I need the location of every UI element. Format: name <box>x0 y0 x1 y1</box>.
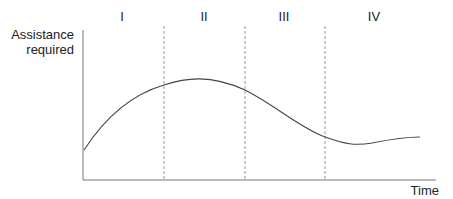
phase-label-2: II <box>200 9 207 24</box>
y-axis-label-line2: required <box>4 42 74 57</box>
phase-label-4: IV <box>368 9 380 24</box>
assistance-curve <box>84 79 420 150</box>
x-axis-label: Time <box>411 183 439 198</box>
y-axis-label: Assistance required <box>4 27 74 57</box>
y-axis-label-line1: Assistance <box>4 27 74 42</box>
phase-label-1: I <box>120 9 124 24</box>
phase-label-3: III <box>279 9 290 24</box>
